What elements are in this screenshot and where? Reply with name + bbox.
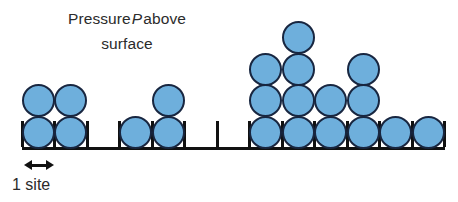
site-scale-arrow xyxy=(24,160,54,172)
particle-site-10-level-2 xyxy=(347,53,380,86)
lattice-baseline xyxy=(22,147,445,150)
particle-site-4-level-0 xyxy=(152,116,185,149)
particle-site-7-level-2 xyxy=(249,53,282,86)
particle-site-8-level-2 xyxy=(282,53,315,86)
particle-site-3-level-0 xyxy=(119,116,152,149)
particle-site-8-level-1 xyxy=(282,84,315,117)
particle-site-1-level-0 xyxy=(54,116,87,149)
lattice-site-divider-6 xyxy=(216,121,219,147)
particle-site-10-level-1 xyxy=(347,84,380,117)
particle-site-4-level-1 xyxy=(152,84,185,117)
figure-canvas: PressurePabove surface 1 site xyxy=(0,0,458,202)
particle-site-12-level-0 xyxy=(412,116,445,149)
particle-site-7-level-0 xyxy=(249,116,282,149)
particle-site-0-level-1 xyxy=(22,84,55,117)
particle-site-10-level-0 xyxy=(347,116,380,149)
site-scale-label: 1 site xyxy=(12,176,50,194)
particle-site-8-level-3 xyxy=(282,21,315,54)
particle-site-9-level-0 xyxy=(314,116,347,149)
particle-site-11-level-0 xyxy=(379,116,412,149)
arrow-head-right-icon xyxy=(46,160,54,170)
particle-site-8-level-0 xyxy=(282,116,315,149)
particle-site-0-level-0 xyxy=(22,116,55,149)
